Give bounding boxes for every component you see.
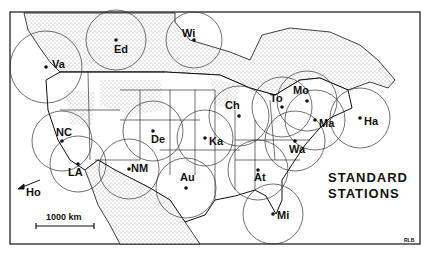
station-label-la: LA: [68, 167, 83, 178]
station-label-wa: Wa: [289, 144, 305, 155]
station-label-nc: NC: [56, 127, 72, 138]
station-dot-mi: [271, 212, 275, 216]
station-dot-va: [44, 65, 48, 69]
signature: RLB: [404, 237, 414, 243]
station-dot-nc: [60, 139, 64, 143]
station-dot-ha: [358, 116, 362, 120]
station-dot-au: [184, 186, 188, 190]
station-label-de: De: [151, 134, 165, 145]
station-label-au: Au: [180, 172, 195, 183]
station-label-to: To: [270, 93, 283, 104]
station-dot-mo: [305, 99, 309, 103]
station-dot-ka: [203, 136, 207, 140]
station-label-ha: Ha: [364, 116, 378, 127]
map-title: STANDARD STATIONS: [328, 170, 408, 203]
station-label-ka: Ka: [209, 136, 223, 147]
station-dot-ma: [313, 118, 317, 122]
title-line-1: STANDARD: [328, 170, 408, 186]
station-dot-to: [280, 105, 284, 109]
offmap-station-label: Ho: [26, 187, 41, 198]
station-label-mi: Mi: [277, 210, 289, 221]
station-label-ch: Ch: [225, 100, 240, 111]
station-label-nm: NM: [131, 163, 148, 174]
station-dot-ch: [237, 114, 241, 118]
title-line-2: STATIONS: [328, 186, 408, 202]
station-dot-ed: [114, 38, 118, 42]
station-label-ma: Ma: [319, 118, 334, 129]
scale-label: 1000 km: [46, 212, 82, 222]
station-label-va: Va: [52, 59, 65, 70]
station-label-at: At: [254, 172, 266, 183]
station-label-mo: Mo: [293, 85, 309, 96]
station-label-wi: Wi: [182, 28, 195, 39]
station-label-ed: Ed: [114, 44, 128, 55]
